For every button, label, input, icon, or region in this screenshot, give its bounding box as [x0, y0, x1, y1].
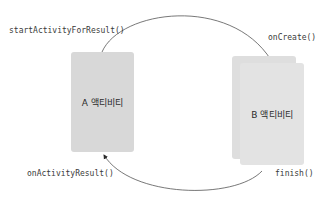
activity-b-card: B 액티비티: [240, 63, 304, 165]
activity-b-label: B 액티비티: [251, 108, 293, 121]
return-result-arrow: [104, 155, 262, 190]
on-activity-result-label: onActivityResult(): [27, 169, 114, 179]
finish-label: finish(): [275, 169, 314, 179]
activity-a-card: A 액티비티: [71, 52, 134, 152]
activity-a-label: A 액티비티: [82, 96, 124, 109]
start-activity-for-result-label: startActivityForResult(): [9, 26, 125, 36]
on-create-label: onCreate(): [268, 33, 316, 43]
activity-flow-diagram: A 액티비티 B 액티비티 startActivityForResult() o…: [0, 0, 321, 199]
